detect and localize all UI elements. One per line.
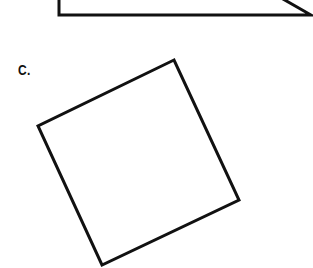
figure-label: C. bbox=[18, 61, 31, 78]
figure-canvas: C. bbox=[0, 0, 313, 268]
shapes-svg bbox=[0, 0, 313, 268]
rotated-square-shape bbox=[38, 60, 239, 265]
partial-trapezoid-shape bbox=[59, 0, 311, 15]
